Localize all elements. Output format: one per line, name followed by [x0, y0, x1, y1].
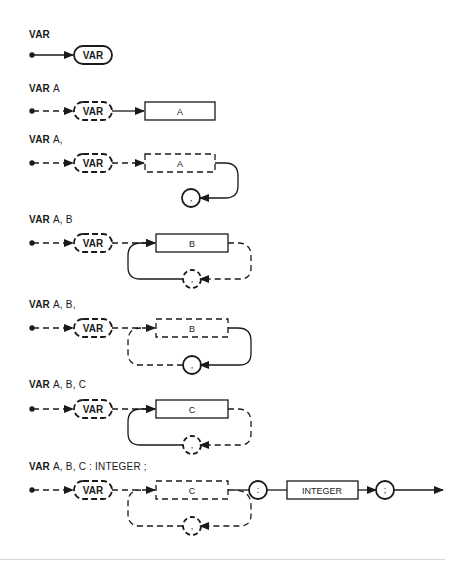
diagram-3: VAR A , [30, 154, 238, 207]
comma-text: , [191, 440, 194, 450]
comma-text: , [191, 360, 194, 370]
comma-text: , [191, 274, 194, 284]
var-text: VAR [83, 404, 104, 415]
diagram-2: VAR A [30, 102, 215, 120]
var-text: VAR [83, 485, 104, 496]
identifier-text: B [189, 324, 195, 334]
identifier-text: A [177, 159, 183, 169]
syntax-diagrams: VAR VAR A VAR A , VAR B , [0, 0, 465, 563]
var-text: VAR [83, 106, 104, 117]
integer-text: INTEGER [302, 486, 343, 496]
identifier-text: C [189, 405, 196, 415]
comma-text: , [190, 193, 193, 203]
var-text: VAR [83, 238, 104, 249]
var-text: VAR [83, 323, 104, 334]
diagram-6: VAR C , [30, 400, 251, 454]
diagram-4: VAR B , [30, 234, 251, 288]
identifier-text: A [177, 107, 183, 117]
comma-text: , [191, 521, 194, 531]
diagram-1: VAR [30, 46, 112, 64]
identifier-text: C [189, 486, 196, 496]
diagram-5: VAR B , [30, 319, 251, 374]
var-text: VAR [83, 158, 104, 169]
page-edge-rule [0, 559, 445, 560]
semicolon-text: ; [384, 485, 387, 495]
var-text: VAR [83, 50, 104, 61]
colon-text: : [257, 485, 260, 495]
diagram-7: VAR C , : INTEGER ; [30, 481, 443, 535]
identifier-text: B [189, 239, 195, 249]
